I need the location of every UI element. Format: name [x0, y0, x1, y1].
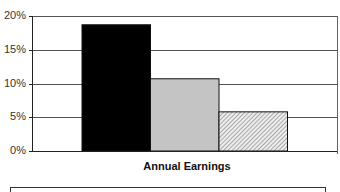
- x-axis-title: Annual Earnings: [0, 160, 340, 172]
- y-tick-label: 10%: [0, 77, 26, 89]
- bar-2: [151, 79, 220, 151]
- y-tick-label: 0%: [0, 144, 26, 156]
- y-tick-label: 15%: [0, 43, 26, 55]
- y-tick-label: 20%: [0, 9, 26, 21]
- y-tick-label: 5%: [0, 110, 26, 122]
- legend: [10, 187, 326, 192]
- bars: [82, 25, 288, 151]
- bar-3: [219, 112, 288, 151]
- bar-1: [82, 25, 151, 151]
